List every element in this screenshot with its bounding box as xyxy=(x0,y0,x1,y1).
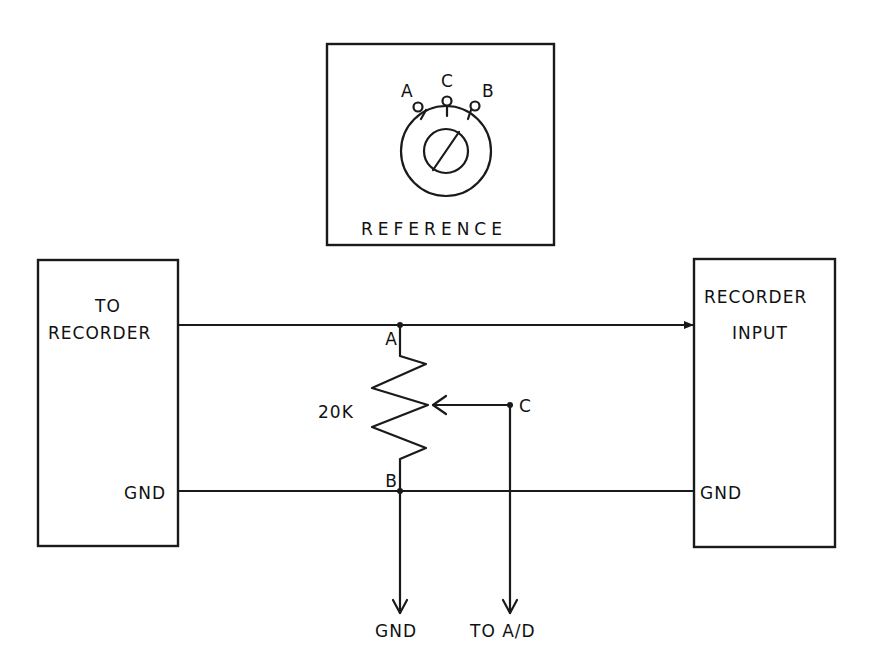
to-ad-output-label: TO A/D xyxy=(469,621,536,641)
recorder-input-box: RECORDER INPUT GND xyxy=(694,259,835,547)
pot-terminal-a-label: A xyxy=(385,329,398,349)
reference-inset: A C B REFERENCE xyxy=(327,44,554,245)
to-recorder-box: TO RECORDER GND xyxy=(38,260,178,546)
gnd-output-label: GND xyxy=(375,621,417,641)
pot-terminal-b-label: B xyxy=(385,471,398,491)
schematic-canvas: A C B REFERENCE TO RECORDER GND RECORDER… xyxy=(0,0,869,665)
wiper-arrow-icon xyxy=(433,396,510,414)
left-box-label-line2: RECORDER xyxy=(48,323,151,343)
right-box-label-line1: RECORDER xyxy=(704,287,807,307)
potentiometer-knob-icon xyxy=(401,97,491,197)
reference-terminal-a: A xyxy=(401,81,414,101)
wiper-c-label: C xyxy=(519,396,532,416)
resistor-20k-icon xyxy=(372,325,428,491)
pot-value-label: 20K xyxy=(318,402,354,422)
left-box-gnd-label: GND xyxy=(124,483,166,503)
reference-title: REFERENCE xyxy=(361,219,507,239)
gnd-output-arrow-icon xyxy=(393,491,407,613)
reference-terminal-b: B xyxy=(482,81,495,101)
to-ad-output-arrow-icon xyxy=(503,405,517,613)
right-box-gnd-label: GND xyxy=(700,483,742,503)
reference-terminal-c: C xyxy=(441,71,454,91)
right-box-label-line2: INPUT xyxy=(732,323,788,343)
left-box-label-line1: TO xyxy=(94,296,121,316)
